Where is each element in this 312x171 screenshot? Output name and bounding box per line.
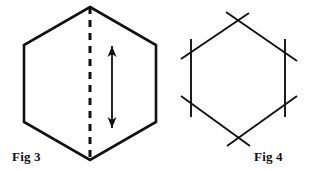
fig4-caption: Fig 4 xyxy=(254,149,283,164)
figure-canvas: Fig 3 Fig 4 xyxy=(0,0,312,171)
fig3-caption: Fig 3 xyxy=(12,149,41,164)
